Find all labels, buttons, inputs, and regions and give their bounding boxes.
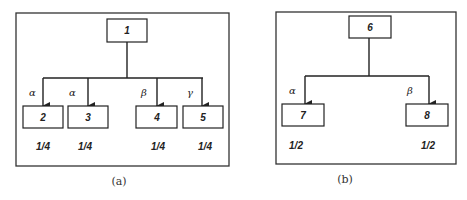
- node-2-label: 2: [39, 112, 46, 123]
- weight-node-2: 1/4: [36, 141, 50, 152]
- edge-label-1-2: α: [29, 87, 36, 98]
- caption-b: (b): [337, 173, 353, 186]
- edge-label-1-5: γ: [187, 87, 193, 98]
- caption-a: (a): [111, 175, 126, 188]
- node-8-label: 8: [424, 110, 430, 121]
- weight-node-8: 1/2: [421, 140, 435, 151]
- edge-label-6-7: α: [289, 85, 296, 96]
- edge-label-1-3: α: [69, 87, 76, 98]
- node-4-label: 4: [153, 112, 160, 123]
- diagram-canvas: 1 α α β γ 2 3 4 5 1/4 1/4 1/4 1/4 (a) 6 …: [0, 0, 467, 200]
- node-7-label: 7: [300, 110, 306, 121]
- weight-node-5: 1/4: [198, 141, 212, 152]
- node-1-label: 1: [124, 25, 130, 36]
- node-6-label: 6: [367, 22, 373, 33]
- edge-label-6-8: β: [406, 85, 413, 96]
- weight-node-4: 1/4: [151, 141, 165, 152]
- panel-a: 1 α α β γ 2 3 4 5 1/4 1/4 1/4 1/4 (a): [16, 13, 229, 188]
- node-3-label: 3: [85, 112, 91, 123]
- edge-label-1-4: β: [140, 87, 147, 98]
- weight-node-7: 1/2: [289, 140, 303, 151]
- node-5-label: 5: [200, 112, 206, 123]
- panel-b: 6 α β 7 8 1/2 1/2 (b): [276, 12, 456, 186]
- weight-node-3: 1/4: [78, 141, 92, 152]
